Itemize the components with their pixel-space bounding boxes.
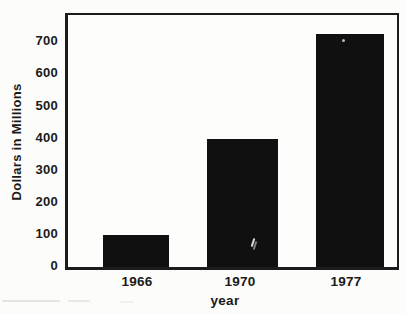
scan-smudge-artifact [68, 300, 90, 302]
y-tick-label-700: 700 [14, 34, 58, 48]
x-tick-label-1977: 1977 [316, 275, 376, 289]
y-tick-label-0: 0 [14, 259, 58, 273]
y-tick-label-600: 600 [14, 66, 58, 80]
scan-smudge-artifact [120, 301, 134, 303]
bar-1970 [207, 139, 278, 267]
bar-chart-figure: Dollars in Millions 01002003004005006007… [0, 0, 406, 314]
scan-speck-artifact [342, 39, 345, 42]
y-tick-label-200: 200 [14, 195, 58, 209]
x-tick-label-1966: 1966 [107, 275, 167, 289]
y-tick-label-300: 300 [14, 163, 58, 177]
x-axis-title: year [190, 294, 260, 308]
x-tick-label-1970: 1970 [210, 275, 270, 289]
bar-1977 [316, 34, 384, 267]
y-tick-label-500: 500 [14, 99, 58, 113]
scan-slash-artifact [250, 238, 258, 250]
bar-1966 [103, 235, 169, 267]
scan-smudge-artifact [2, 300, 60, 302]
y-tick-label-400: 400 [14, 131, 58, 145]
y-tick-label-100: 100 [14, 227, 58, 241]
